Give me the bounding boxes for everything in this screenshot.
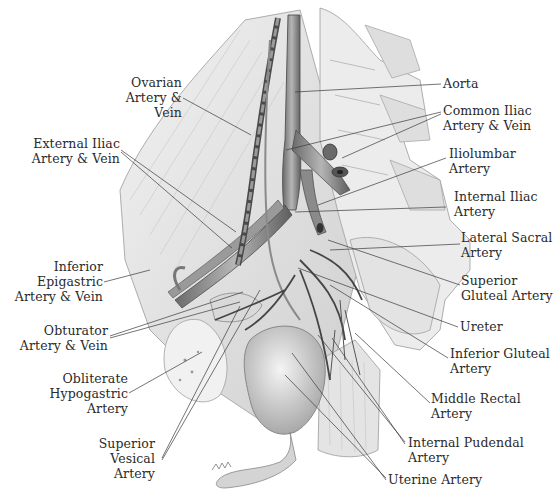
- label-uterine-artery: Uterine Artery: [388, 472, 482, 487]
- label-middle-rectal-artery: Middle Rectal Artery: [431, 391, 521, 421]
- label-internal-pudendal-artery: Internal Pudendal Artery: [408, 435, 524, 465]
- label-lateral-sacral-artery: Lateral Sacral Artery: [461, 230, 552, 260]
- label-ureter: Ureter: [460, 319, 503, 334]
- pelvic-vasculature-diagram: Ovarian Artery & Vein External Iliac Art…: [0, 0, 556, 496]
- label-obturator-artery-vein: Obturator Artery & Vein: [10, 323, 108, 353]
- rectum: [318, 340, 380, 457]
- label-external-iliac-artery-vein: External Iliac Artery & Vein: [20, 136, 120, 166]
- label-aorta: Aorta: [443, 76, 479, 91]
- label-inferior-gluteal-artery: Inferior Gluteal Artery: [450, 346, 550, 376]
- label-internal-iliac-artery: Internal Iliac Artery: [454, 189, 538, 219]
- label-iliolumbar-artery: Iliolumbar Artery: [449, 146, 516, 176]
- label-superior-vesical-artery: Superior Vesical Artery: [80, 436, 155, 481]
- label-ovarian-artery-vein: Ovarian Artery & Vein: [100, 75, 182, 120]
- label-common-iliac-artery-vein: Common Iliac Artery & Vein: [443, 103, 532, 133]
- label-superior-gluteal-artery: Superior Gluteal Artery: [461, 273, 553, 303]
- label-obliterate-hypogastric-artery: Obliterate Hypogastric Artery: [40, 371, 128, 416]
- label-inferior-epigastric-artery-vein: Inferior Epigastric Artery & Vein: [6, 259, 103, 304]
